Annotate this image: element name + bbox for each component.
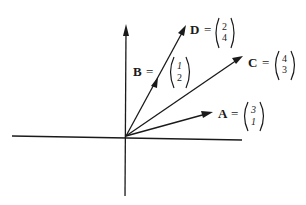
vector-a-label: A = 3 1: [218, 102, 264, 131]
right-paren: [231, 18, 234, 48]
vector-a: [126, 111, 213, 136]
vector-b-label: B = 1 2: [133, 57, 190, 88]
vector-b-top: 1: [177, 60, 182, 71]
vector-c-bottom: 3: [282, 64, 287, 75]
x-axis: [12, 136, 242, 140]
vector-diagram: D = 2 4 B = 1 2 C = 4 3 A = 3 1: [0, 0, 306, 205]
vector-a-arrowhead-icon: [201, 111, 213, 118]
vector-c-top: 4: [282, 53, 287, 64]
vector-d-arrowhead-icon: [178, 25, 186, 36]
vector-c-name: C: [248, 55, 257, 70]
vector-d-label: D = 2 4: [190, 18, 234, 48]
right-paren: [291, 51, 295, 80]
y-axis: [125, 30, 126, 196]
vector-d-bottom: 4: [222, 32, 227, 43]
vector-a-bottom: 1: [251, 116, 256, 127]
right-paren: [260, 102, 264, 131]
vector-a-name: A: [218, 106, 228, 121]
left-paren: [171, 57, 175, 88]
left-paren: [276, 51, 280, 80]
vector-d-name: D: [190, 22, 199, 37]
y-axis-arrow-icon: [123, 24, 129, 36]
left-paren: [245, 102, 249, 131]
vector-c-label: C = 4 3: [248, 51, 295, 80]
vector-c: [126, 56, 243, 136]
vector-a-equals: =: [231, 106, 238, 121]
left-paren: [216, 18, 219, 48]
vector-b-equals: =: [146, 64, 153, 79]
vector-c-equals: =: [262, 55, 269, 70]
right-paren: [186, 57, 190, 88]
vector-d-top: 2: [222, 21, 227, 32]
vector-d-equals: =: [204, 22, 211, 37]
vector-a-top: 3: [250, 104, 256, 115]
vector-b-bottom: 2: [177, 72, 182, 83]
vector-b-name: B: [133, 64, 142, 79]
